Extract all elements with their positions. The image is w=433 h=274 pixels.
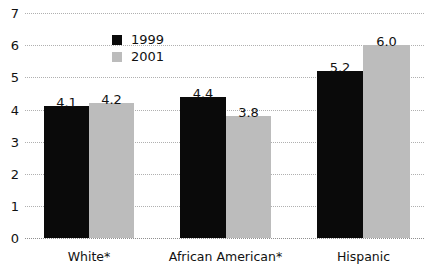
y-axis-tick-5: 5: [0, 71, 19, 84]
y-axis-tick-7: 7: [0, 7, 19, 20]
bar-value-2001-white: 4.2: [89, 93, 134, 106]
y-axis-tick-6: 6: [0, 39, 19, 52]
y-axis-tick-4: 4: [0, 104, 19, 117]
legend-swatch-2001-icon: [112, 52, 122, 62]
bar-2001-white: [89, 103, 134, 238]
legend-item-2001: 2001: [112, 48, 164, 65]
category-label-hispanic: Hispanic: [303, 251, 424, 264]
bar-1999-white: [44, 106, 89, 238]
bar-value-1999-african-american: 4.4: [180, 87, 226, 100]
legend-item-1999: 1999: [112, 31, 164, 48]
y-axis-tick-2: 2: [0, 168, 19, 181]
bar-1999-hispanic: [317, 71, 363, 238]
y-axis-tick-0: 0: [0, 232, 19, 245]
bar-2001-hispanic: [363, 45, 410, 238]
gridline-7: [25, 13, 424, 14]
bar-value-2001-hispanic: 6.0: [363, 35, 410, 48]
bar-chart: 7 6 5 4 3 2 1 0 4.1 4.2 White* 4.4 3.8 A…: [0, 0, 433, 274]
bar-1999-african-american: [180, 97, 226, 238]
y-axis-tick-1: 1: [0, 200, 19, 213]
bar-value-1999-hispanic: 5.2: [317, 61, 363, 74]
y-axis-tick-3: 3: [0, 136, 19, 149]
bar-value-1999-white: 4.1: [44, 96, 89, 109]
legend-label-2001: 2001: [131, 50, 164, 63]
legend-label-1999: 1999: [131, 33, 164, 46]
category-label-white: White*: [29, 251, 149, 264]
gridline-0: [25, 238, 424, 239]
bar-2001-african-american: [226, 116, 271, 238]
legend: 1999 2001: [112, 31, 164, 65]
bar-value-2001-african-american: 3.8: [226, 106, 271, 119]
legend-swatch-1999-icon: [112, 35, 122, 45]
category-label-african-american: African American*: [165, 251, 286, 264]
